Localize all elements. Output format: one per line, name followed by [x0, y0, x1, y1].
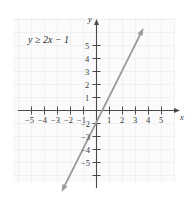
y-tick-label: −2 [81, 120, 90, 129]
y-tick-label: 3 [85, 68, 89, 77]
x-tick-label: 3 [133, 116, 137, 125]
y-tick-label: −4 [81, 146, 90, 155]
x-tick-label: 5 [159, 116, 163, 125]
y-axis-label: y [88, 15, 92, 24]
boundary-line-arrowhead-bottom [62, 184, 68, 192]
y-tick-label: −5 [81, 159, 90, 168]
x-tick-label: 4 [146, 116, 150, 125]
x-tick-label: −3 [51, 116, 60, 125]
y-tick-label: −3 [81, 133, 90, 142]
y-tick-label: 4 [85, 55, 89, 64]
x-tick-label: −5 [25, 116, 34, 125]
x-tick-label: 2 [120, 116, 124, 125]
x-tick-label: 1 [107, 116, 111, 125]
y-tick-label: 1 [85, 94, 89, 103]
x-axis-label: x [180, 113, 184, 122]
graph-canvas [0, 0, 192, 200]
inequality-graph-figure: y ≥ 2x − 1 y x −5 −4 −3 −2 −1 1 2 3 4 5 … [0, 0, 192, 200]
x-tick-label: −4 [38, 116, 47, 125]
y-tick-label: 2 [85, 81, 89, 90]
x-tick-label: −2 [64, 116, 73, 125]
inequality-annotation: y ≥ 2x − 1 [28, 35, 69, 45]
y-tick-label: 5 [85, 42, 89, 51]
